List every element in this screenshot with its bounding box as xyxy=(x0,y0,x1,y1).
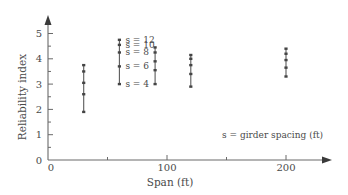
data-point xyxy=(284,59,287,61)
y-tick-label: 3 xyxy=(36,79,42,90)
span-group-30 xyxy=(82,64,85,113)
data-point xyxy=(82,93,85,95)
x-tick-label: 100 xyxy=(157,162,176,173)
data-point xyxy=(118,65,121,67)
y-axis-arrow-icon xyxy=(45,15,52,25)
data-point xyxy=(189,54,192,56)
x-axis-title: Span (ft) xyxy=(147,176,194,188)
data-point xyxy=(154,69,157,71)
reliability-chart: 0123450100200 Span (ft) Reliability inde… xyxy=(0,0,348,195)
spacing-annotation: s = girder spacing (ft) xyxy=(222,130,323,140)
tick-labels: 0123450100200 xyxy=(36,28,296,173)
data-point xyxy=(118,39,121,41)
data-point xyxy=(284,75,287,77)
data-point xyxy=(154,60,157,62)
data-point xyxy=(82,111,85,113)
x-tick-label: 200 xyxy=(276,162,295,173)
y-tick-label: 1 xyxy=(36,129,42,140)
y-tick-label: 2 xyxy=(36,104,42,115)
data-point xyxy=(284,66,287,68)
data-point xyxy=(189,73,192,75)
data-point xyxy=(284,47,287,49)
data-point xyxy=(284,53,287,55)
spacing-label: s = 4 xyxy=(125,79,149,89)
spacing-label: s = 6 xyxy=(125,61,149,71)
data-point xyxy=(189,85,192,87)
span-group-90 xyxy=(154,46,157,85)
y-tick-label: 4 xyxy=(36,53,42,64)
spacing-labels: s = 12s = 10s = 8s = 6s = 4 xyxy=(125,35,155,89)
data-point xyxy=(154,83,157,85)
span-group-200 xyxy=(284,47,287,77)
y-tick-label: 0 xyxy=(36,155,42,166)
data-point xyxy=(189,58,192,60)
span-group-60 xyxy=(118,39,121,86)
data-point xyxy=(189,64,192,66)
data-point xyxy=(82,82,85,84)
x-axis-arrow-icon xyxy=(322,157,332,164)
data-point xyxy=(154,51,157,53)
data-point xyxy=(118,83,121,85)
data-point xyxy=(118,44,121,46)
x-tick-label: 0 xyxy=(48,162,54,173)
data-groups xyxy=(82,39,288,114)
y-axis-title: Reliability index xyxy=(16,54,28,140)
y-tick-label: 5 xyxy=(36,28,42,39)
data-point xyxy=(82,70,85,72)
axes xyxy=(45,15,333,164)
span-group-120 xyxy=(189,54,192,88)
spacing-label: s = 8 xyxy=(125,47,149,57)
data-point xyxy=(82,64,85,66)
data-point xyxy=(118,51,121,53)
